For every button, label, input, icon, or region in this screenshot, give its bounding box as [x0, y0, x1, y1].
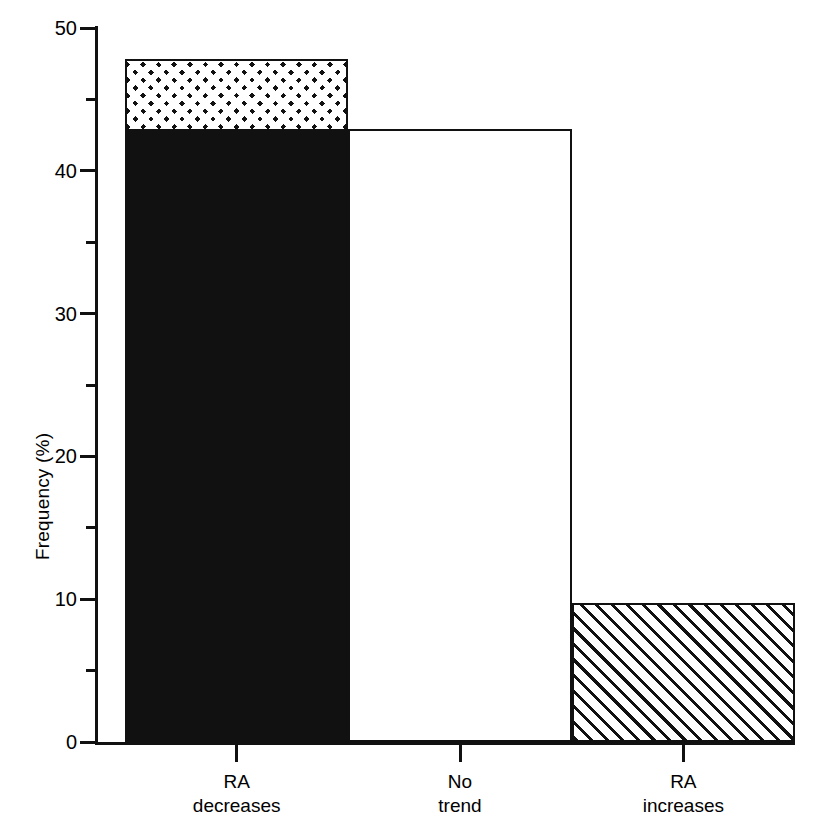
- y-tick-label: 10: [37, 589, 77, 609]
- y-tick-minor: [86, 98, 95, 101]
- x-axis-spine: [95, 742, 795, 745]
- y-tick-label: 50: [37, 18, 77, 38]
- y-tick-label: 40: [37, 161, 77, 181]
- x-tick-label-no-trend: No trend: [350, 770, 570, 818]
- plot-area: 01020304050 RA decreasesNo trendRA incre…: [95, 28, 795, 742]
- y-axis-spine: [95, 26, 98, 744]
- y-tick-major: [80, 27, 95, 30]
- y-tick-label: 30: [37, 304, 77, 324]
- y-tick-minor: [86, 526, 95, 529]
- x-tick-label-ra-decreases: RA decreases: [127, 770, 347, 818]
- x-tick: [682, 742, 685, 762]
- y-tick-major: [80, 455, 95, 458]
- y-tick-minor: [86, 669, 95, 672]
- x-tick: [459, 742, 462, 762]
- chart-figure: Frequency (%) 01020304050 RA decreasesNo…: [0, 0, 832, 835]
- bar-no-trend-segment-open: [348, 129, 571, 742]
- y-tick-minor: [86, 241, 95, 244]
- bar-ra-decreases-segment-solid: [125, 129, 348, 742]
- y-tick-major: [80, 598, 95, 601]
- bar-ra-decreases-segment-cross: [125, 59, 348, 129]
- y-tick-label: 20: [37, 446, 77, 466]
- y-tick-label: 0: [37, 732, 77, 752]
- y-tick-major: [80, 169, 95, 172]
- y-tick-major: [80, 741, 95, 744]
- bar-ra-increases-segment-diagonal: [572, 603, 795, 742]
- y-tick-major: [80, 312, 95, 315]
- x-tick-label-ra-increases: RA increases: [573, 770, 793, 818]
- x-tick: [235, 742, 238, 762]
- y-tick-minor: [86, 384, 95, 387]
